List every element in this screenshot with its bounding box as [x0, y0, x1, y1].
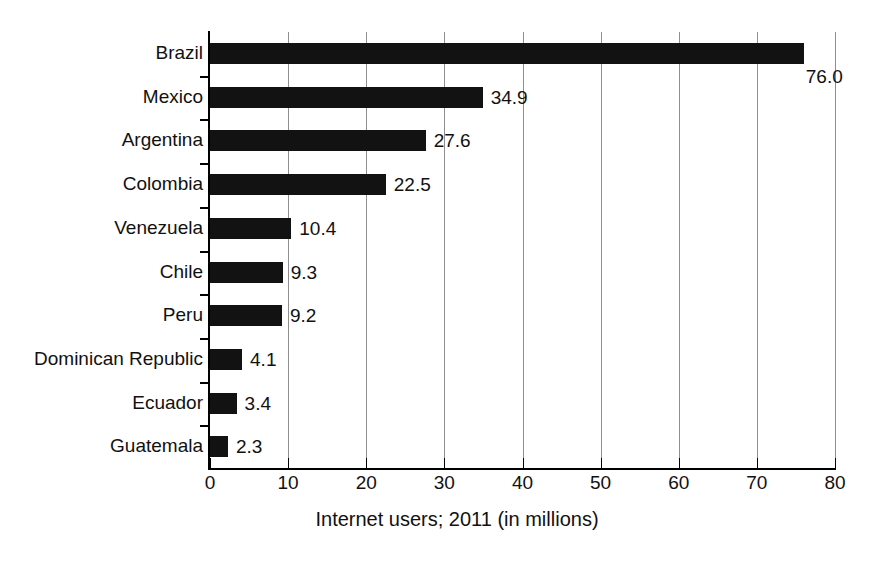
x-tick-label: 50 [571, 472, 631, 494]
bar-value-label: 2.3 [236, 436, 262, 457]
y-tick-label: Ecuador [3, 392, 203, 414]
y-tick [200, 382, 209, 384]
y-tick [200, 163, 209, 165]
bar-value-label: 9.3 [291, 262, 317, 283]
y-tick [200, 207, 209, 209]
x-tick-label: 60 [649, 472, 709, 494]
bar[interactable] [210, 436, 228, 457]
y-tick [200, 76, 209, 78]
bar-row: 3.4 [210, 382, 835, 426]
bar-value-label: 9.2 [290, 305, 316, 326]
bar[interactable] [210, 393, 237, 414]
y-tick-label: Dominican Republic [3, 348, 203, 370]
y-axis-category-labels: BrazilMexicoArgentinaColombiaVenezuelaCh… [0, 32, 203, 469]
x-axis-title-text: Internet users; 2011 (in millions) [315, 508, 598, 531]
x-tick [679, 458, 680, 469]
bar-row: 22.5 [210, 163, 835, 207]
bar-value-label: 10.4 [299, 218, 336, 239]
x-axis-title: Internet users; 2011 (in millions) [0, 508, 880, 531]
x-tick [210, 458, 211, 469]
bar-value-label: 27.6 [434, 130, 471, 151]
y-tick [200, 338, 209, 340]
y-tick-label: Chile [3, 261, 203, 283]
bar[interactable] [210, 305, 282, 326]
x-tick [523, 458, 524, 469]
x-tick [835, 458, 836, 469]
x-tick-label: 0 [180, 472, 240, 494]
x-tick [444, 458, 445, 469]
y-tick-label: Colombia [3, 173, 203, 195]
y-tick [200, 119, 209, 121]
bar-value-label: 3.4 [245, 393, 271, 414]
bar-value-label: 22.5 [394, 174, 431, 195]
bar-row: 10.4 [210, 207, 835, 251]
gridline [835, 32, 836, 469]
bar[interactable] [210, 218, 291, 239]
y-tick [200, 294, 209, 296]
y-tick-label: Venezuela [3, 217, 203, 239]
y-tick-label: Guatemala [3, 435, 203, 457]
bar[interactable] [210, 262, 283, 283]
bar[interactable] [210, 43, 804, 64]
x-tick-label: 70 [727, 472, 787, 494]
x-tick [601, 458, 602, 469]
bar[interactable] [210, 349, 242, 370]
x-tick-label: 20 [336, 472, 396, 494]
x-tick [366, 458, 367, 469]
x-tick-label: 10 [258, 472, 318, 494]
bar-value-label: 4.1 [250, 349, 276, 370]
bar-chart: BrazilMexicoArgentinaColombiaVenezuelaCh… [0, 0, 880, 572]
bar-row: 4.1 [210, 338, 835, 382]
y-tick [200, 251, 209, 253]
x-tick-label: 30 [414, 472, 474, 494]
y-tick [200, 425, 209, 427]
y-tick-label: Argentina [3, 129, 203, 151]
bar-value-label: 34.9 [491, 87, 528, 108]
x-tick [757, 458, 758, 469]
bar[interactable] [210, 87, 483, 108]
y-tick-label: Mexico [3, 86, 203, 108]
x-tick [288, 458, 289, 469]
bar-row: 34.9 [210, 76, 835, 120]
x-tick-label: 40 [493, 472, 553, 494]
bar-row: 9.3 [210, 251, 835, 295]
bar-row: 9.2 [210, 294, 835, 338]
bar-row: 76.0 [210, 32, 835, 76]
y-tick-label: Peru [3, 304, 203, 326]
y-tick-label: Brazil [3, 42, 203, 64]
x-tick-label: 80 [805, 472, 865, 494]
bar[interactable] [210, 174, 386, 195]
bar[interactable] [210, 130, 426, 151]
bar-row: 27.6 [210, 119, 835, 163]
plot-area: 76.034.927.622.510.49.39.24.13.42.3 [210, 32, 835, 469]
